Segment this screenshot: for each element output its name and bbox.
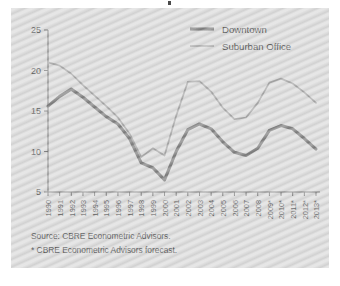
x-tick-label: 2007 bbox=[242, 200, 251, 216]
x-tick-label: 1990 bbox=[44, 200, 53, 216]
chart-figure: 510152025 199019911992199319941995199619… bbox=[0, 0, 340, 286]
x-tick-labels-group: 1990199119921993199419951996199719981999… bbox=[44, 200, 321, 219]
series-group bbox=[48, 62, 316, 179]
x-tick-label: 1995 bbox=[102, 200, 111, 216]
legend-label-suburban-office: Suburban Office bbox=[222, 41, 291, 52]
x-tick-label: 2000 bbox=[161, 200, 170, 216]
x-tick-label: 1994 bbox=[91, 200, 100, 216]
x-tick-label: 2003 bbox=[196, 200, 205, 216]
x-tick-label: 1998 bbox=[137, 200, 146, 216]
axis-lines-group bbox=[48, 30, 320, 192]
y-tick-label: 5 bbox=[36, 187, 41, 197]
x-tick-label: 2002 bbox=[184, 200, 193, 216]
y-tick-label: 10 bbox=[31, 147, 41, 157]
forecast-note: * CBRE Econometric Advisors forecast. bbox=[31, 245, 177, 255]
x-tick-label: 2008 bbox=[254, 200, 263, 216]
x-tick-label: 1996 bbox=[114, 200, 123, 216]
y-tick-label: 25 bbox=[31, 25, 41, 35]
x-tick-label: 1997 bbox=[126, 200, 135, 216]
x-tick-label: 2012* bbox=[301, 200, 310, 219]
chart-plot-area: 510152025 199019911992199319941995199619… bbox=[11, 8, 329, 268]
x-tick-label: 2006 bbox=[231, 200, 240, 216]
series-line-downtown bbox=[48, 89, 316, 180]
legend-label-downtown: Downtown bbox=[222, 24, 267, 35]
source-note: Source: CBRE Econometric Advisors. bbox=[31, 231, 171, 241]
x-tick-label: 2004 bbox=[207, 200, 216, 216]
x-tick-label: 2009* bbox=[266, 200, 275, 219]
x-tick-label: 2013* bbox=[312, 200, 321, 219]
y-tick-label: 15 bbox=[31, 106, 41, 116]
chart-panel: 510152025 199019911992199319941995199619… bbox=[11, 8, 329, 268]
x-tick-label: 1999 bbox=[149, 200, 158, 216]
chart-legend: Downtown Suburban Office bbox=[190, 24, 291, 52]
y-tick-label: 20 bbox=[31, 66, 41, 76]
x-tick-label: 2001 bbox=[172, 200, 181, 216]
x-tick-label: 1993 bbox=[79, 200, 88, 216]
x-tick-label: 2011* bbox=[289, 200, 298, 219]
x-tick-label: 1992 bbox=[68, 200, 77, 216]
x-tick-label: 1991 bbox=[56, 200, 65, 216]
title-descender-mark bbox=[168, 1, 171, 5]
axis-ticks-group bbox=[44, 30, 316, 196]
x-tick-label: 2010* bbox=[277, 200, 286, 219]
y-tick-labels-group: 510152025 bbox=[31, 25, 41, 197]
x-tick-label: 2005 bbox=[219, 200, 228, 216]
